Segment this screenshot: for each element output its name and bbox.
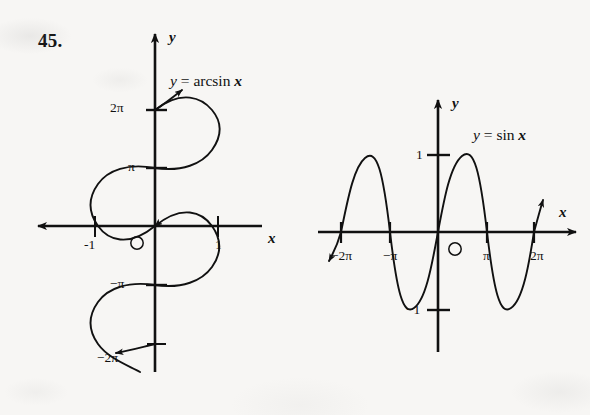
arcsin-curve-lower-tail [116, 344, 155, 353]
arcsin-ylabel-pi: π [128, 160, 135, 174]
arcsin-x-axis-label: x [268, 231, 276, 246]
arcsin-ylabel-neg-pi: −π [110, 277, 124, 291]
sine-eq-y: y [473, 126, 480, 143]
sine-xlabel-2pi: 2π [530, 249, 544, 263]
sine-axes [318, 100, 576, 352]
figure-canvas [0, 0, 590, 415]
arcsin-ylabel-neg-2pi: −2π [97, 351, 118, 365]
arcsin-origin-marker [131, 237, 143, 249]
arcsin-xlabel-neg1: -1 [84, 238, 95, 252]
arcsin-xlabel-1: 1 [215, 238, 222, 252]
sine-curve-right-tail [534, 200, 543, 232]
arcsin-curve-upper-tail [155, 90, 182, 110]
sine-eq-equals: = [484, 126, 493, 143]
sine-ylabel-neg1: −1 [406, 303, 420, 317]
sine-ylabel-1: 1 [416, 148, 423, 162]
sine-xlabel-pi: π [483, 249, 490, 263]
sine-origin-marker [449, 243, 461, 255]
sine-y-axis-label: y [452, 96, 459, 111]
arcsin-ylabel-2pi: 2π [110, 101, 124, 115]
sine-equation-label: y = sin x [473, 127, 526, 143]
sine-x-axis-label: x [559, 205, 567, 220]
arcsin-y-axis-label: y [169, 30, 176, 45]
figure-page: 45. [0, 0, 590, 415]
sine-xlabel-neg-pi: −π [383, 249, 397, 263]
sine-eq-variable: x [518, 126, 526, 143]
arcsin-eq-equals: = [181, 72, 190, 89]
sine-eq-expression: sin [496, 126, 514, 143]
arcsin-eq-y: y [170, 72, 177, 89]
sine-xlabel-neg2pi: −2π [331, 249, 352, 263]
arcsin-equation-label: y = arcsin x [170, 73, 242, 89]
arcsin-eq-variable: x [234, 72, 242, 89]
arcsin-eq-expression: arcsin [193, 72, 230, 89]
